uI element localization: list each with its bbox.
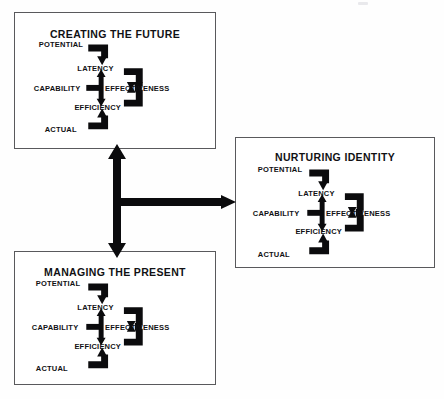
- arrow-potential-to-latency: [88, 45, 108, 66]
- node-label-latency: LATENCY: [77, 303, 113, 312]
- node-label-latency: LATENCY: [298, 189, 334, 198]
- central-connector-group: [98, 142, 242, 260]
- node-label-potential: POTENTIAL: [39, 41, 84, 50]
- node-label-actual: ACTUAL: [258, 250, 290, 259]
- arrow-potential-to-latency: [309, 170, 329, 191]
- arrow-latency-to-effectiveness: [124, 68, 143, 92]
- panel-managing-the-present[interactable]: MANAGING THE PRESENT: [14, 251, 216, 385]
- arrow-potential-to-latency: [88, 284, 108, 305]
- node-label-actual: ACTUAL: [36, 364, 68, 373]
- arrow-capability-double: [86, 69, 105, 106]
- panel-title-managing-the-present: MANAGING THE PRESENT: [15, 266, 215, 278]
- panel-title-creating-the-future: CREATING THE FUTURE: [15, 28, 215, 40]
- node-label-actual: ACTUAL: [45, 125, 77, 134]
- node-label-effectiveness: EFFECTIVENESS: [105, 323, 169, 332]
- arrow-latency-to-effectiveness: [345, 193, 364, 217]
- arrow-actual-to-efficiency: [309, 234, 329, 255]
- node-label-latency: LATENCY: [77, 64, 113, 73]
- node-label-capability: CAPABILITY: [253, 209, 300, 218]
- node-label-potential: POTENTIAL: [36, 279, 81, 288]
- node-label-effectiveness: EFFECTIVENESS: [326, 209, 390, 218]
- arrow-actual-to-efficiency: [88, 348, 108, 369]
- arrow-actual-to-efficiency: [88, 109, 108, 130]
- scan-artifact: [358, 2, 368, 5]
- arrow-efficiency-to-effectiveness: [124, 324, 143, 346]
- arrow-capability-double: [86, 308, 105, 345]
- arrow-efficiency-to-effectiveness: [124, 85, 143, 107]
- node-label-effectiveness: EFFECTIVENESS: [105, 84, 169, 93]
- panel-creating-the-future[interactable]: CREATING THE FUTURE: [14, 12, 216, 149]
- node-label-potential: POTENTIAL: [258, 165, 303, 174]
- node-label-capability: CAPABILITY: [34, 84, 81, 93]
- node-label-efficiency: EFFICIENCY: [295, 228, 342, 237]
- panel-title-nurturing-identity: NURTURING IDENTITY: [236, 151, 434, 163]
- diagram-canvas: CREATING THE FUTURE: [0, 0, 444, 399]
- node-label-efficiency: EFFICIENCY: [74, 342, 121, 351]
- panel-nurturing-identity[interactable]: NURTURING IDENTITY: [235, 137, 435, 268]
- node-label-efficiency: EFFICIENCY: [74, 103, 121, 112]
- horizontal-right-arrow-icon: [117, 195, 236, 209]
- node-label-capability: CAPABILITY: [32, 323, 79, 332]
- arrow-latency-to-effectiveness: [124, 307, 143, 331]
- arrow-efficiency-to-effectiveness: [345, 210, 364, 232]
- arrow-capability-double: [307, 194, 326, 231]
